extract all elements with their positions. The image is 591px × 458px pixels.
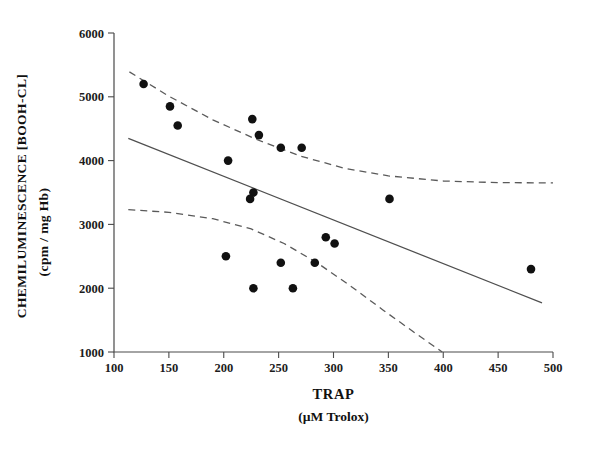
data-point <box>289 284 298 293</box>
y-axis-title: CHEMILUMINESCENCE [BOOH-CL] <box>14 74 29 318</box>
axis-labels: TRAP(µM Trolox)CHEMILUMINESCENCE [BOOH-C… <box>14 74 369 424</box>
data-point <box>173 121 182 130</box>
upper-confidence-band <box>129 72 553 183</box>
data-point <box>385 195 394 204</box>
x-tick-label: 350 <box>379 361 398 375</box>
data-point <box>139 80 148 89</box>
x-tick-label: 400 <box>434 361 453 375</box>
data-point <box>249 284 258 293</box>
data-point <box>311 258 320 267</box>
data-point <box>322 233 331 242</box>
x-axis-title: TRAP <box>313 386 355 402</box>
x-tick-label: 300 <box>324 361 343 375</box>
x-axis-subtitle: (µM Trolox) <box>298 409 368 424</box>
figure-container: 1000200030004000500060001001502002503003… <box>0 0 591 458</box>
confidence-bands <box>128 72 553 352</box>
y-tick-label: 6000 <box>79 27 104 41</box>
axes: 1000200030004000500060001001502002503003… <box>79 27 562 376</box>
data-points <box>139 80 535 293</box>
y-tick-label: 5000 <box>79 90 104 104</box>
data-point <box>277 258 286 267</box>
y-tick-label: 4000 <box>79 154 104 168</box>
y-tick-label: 1000 <box>79 346 104 360</box>
y-axis-subtitle: (cpm / mg Hb) <box>36 188 51 277</box>
x-tick-label: 100 <box>105 361 124 375</box>
x-tick-label: 200 <box>214 361 233 375</box>
y-tick-label: 2000 <box>79 282 104 296</box>
data-point <box>166 102 175 111</box>
data-point <box>255 131 264 140</box>
fit-line <box>128 138 542 303</box>
axis-frame <box>114 33 553 352</box>
data-point <box>527 265 536 274</box>
x-tick-label: 500 <box>544 361 563 375</box>
scatter-plot: 1000200030004000500060001001502002503003… <box>0 0 591 458</box>
data-point <box>222 252 231 261</box>
x-tick-label: 450 <box>489 361 508 375</box>
data-point <box>297 144 306 153</box>
data-point <box>246 195 255 204</box>
lower-confidence-band <box>128 210 442 352</box>
data-point <box>224 156 233 165</box>
x-tick-label: 150 <box>160 361 179 375</box>
regression-line <box>128 138 542 303</box>
y-tick-label: 3000 <box>79 218 104 232</box>
data-point <box>277 144 286 153</box>
x-tick-label: 250 <box>269 361 288 375</box>
data-point <box>248 115 257 124</box>
data-point <box>330 239 339 248</box>
